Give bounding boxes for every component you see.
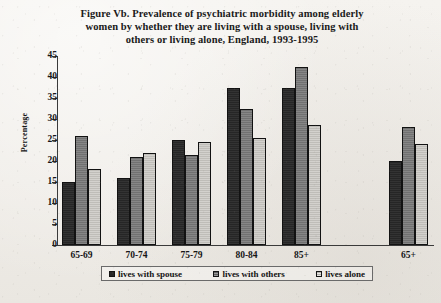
x-axis-label-65plus: 65+ xyxy=(384,250,434,260)
x-axis-label-85plus: 85+ xyxy=(277,250,327,260)
bar-75-79-lives-with-spouse xyxy=(172,140,185,245)
y-axis-tick-label: 20 xyxy=(17,155,57,165)
x-axis-label-80-84: 80-84 xyxy=(222,250,272,260)
bar-85plus-lives-with-spouse xyxy=(282,88,295,246)
y-axis-line xyxy=(57,56,58,246)
bar-80-84-lives-alone xyxy=(253,138,266,245)
y-axis-tick-label: 35 xyxy=(17,92,57,102)
bar-70-74-lives-with-others xyxy=(130,157,143,245)
legend-item-lives-with-others: lives with others xyxy=(213,269,285,279)
bar-75-79-lives-with-others xyxy=(185,155,198,245)
bar-65-69-lives-alone xyxy=(88,169,101,245)
bar-70-74-lives-with-spouse xyxy=(117,178,130,245)
bar-80-84-lives-with-spouse xyxy=(227,88,240,246)
x-axis-line xyxy=(57,245,434,246)
bar-75-79-lives-alone xyxy=(198,142,211,245)
bar-80-84-lives-with-others xyxy=(240,109,253,246)
x-axis-label-65-69: 65-69 xyxy=(57,250,107,260)
y-axis-tick-label: 10 xyxy=(17,197,57,207)
legend-label-spouse: lives with spouse xyxy=(118,269,182,279)
y-axis-tick-label: 45 xyxy=(17,50,57,60)
y-axis-tick-label: 5 xyxy=(17,218,57,228)
x-axis-label-75-79: 75-79 xyxy=(167,250,217,260)
y-axis-tick-label: 15 xyxy=(17,176,57,186)
legend-label-others: lives with others xyxy=(222,269,285,279)
chart-legend: lives with spouse lives with others live… xyxy=(101,266,373,281)
bar-65plus-lives-alone xyxy=(415,144,428,245)
bar-85plus-lives-alone xyxy=(308,125,321,245)
x-axis-label-70-74: 70-74 xyxy=(112,250,162,260)
legend-swatch-icon-others xyxy=(213,271,219,277)
bar-65plus-lives-with-spouse xyxy=(389,161,402,245)
legend-swatch-icon-alone xyxy=(316,271,322,277)
y-axis-tick-label: 30 xyxy=(17,113,57,123)
legend-label-alone: lives alone xyxy=(325,269,365,279)
y-axis-tick-label: 0 xyxy=(17,239,57,249)
bar-85plus-lives-with-others xyxy=(295,67,308,246)
bar-65plus-lives-with-others xyxy=(402,127,415,245)
y-axis-tick-label: 25 xyxy=(17,134,57,144)
legend-swatch-icon-spouse xyxy=(109,271,115,277)
bar-65-69-lives-with-spouse xyxy=(62,182,75,245)
legend-item-lives-with-spouse: lives with spouse xyxy=(109,269,182,279)
chart-page: Figure Vb. Prevalence of psychiatric mor… xyxy=(0,0,441,303)
legend-item-lives-alone: lives alone xyxy=(316,269,365,279)
y-axis-tick-label: 40 xyxy=(17,71,57,81)
bar-65-69-lives-with-others xyxy=(75,136,88,245)
plot-area: Percentage 051015202530354045 65-6970-74… xyxy=(0,0,441,303)
bar-70-74-lives-alone xyxy=(143,153,156,245)
